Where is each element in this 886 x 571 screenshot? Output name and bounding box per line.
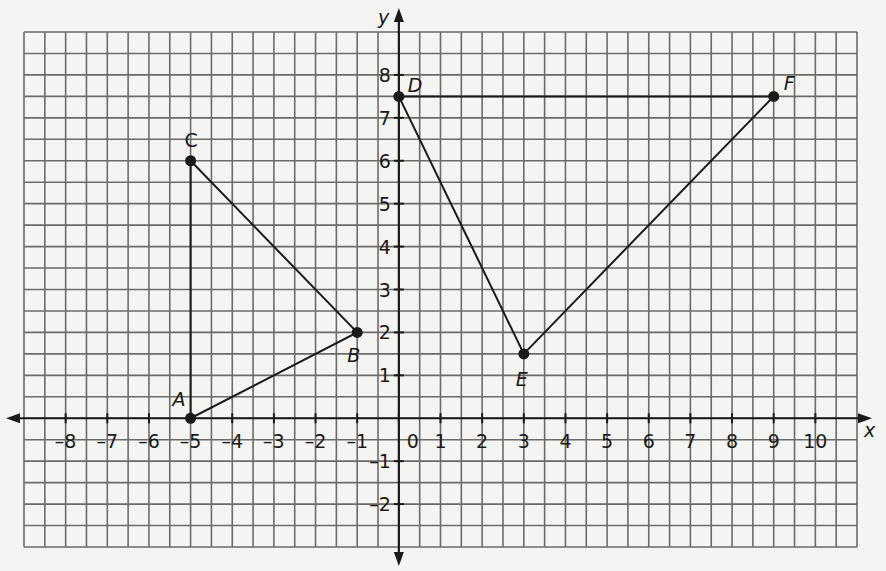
point-label-f: F [784, 72, 796, 94]
arrow-left-icon [6, 413, 20, 423]
x-tick-label: 1 [434, 430, 446, 452]
x-tick-label: 7 [684, 430, 696, 452]
x-tick-label: 3 [518, 430, 530, 452]
x-tick-label: 4 [559, 430, 571, 452]
x-tick-label: 9 [768, 430, 780, 452]
point-e [518, 348, 529, 359]
x-axis-label: x [863, 419, 876, 441]
y-tick-label: 8 [379, 64, 391, 86]
y-tick-label: –2 [369, 493, 391, 515]
x-tick-label: 8 [726, 430, 738, 452]
x-tick-label: 0 [407, 430, 419, 452]
arrow-down-icon [394, 552, 404, 566]
x-tick-label: 10 [803, 430, 827, 452]
x-tick-label: –1 [346, 430, 368, 452]
y-axis-label: y [377, 6, 390, 28]
point-label-c: C [185, 129, 198, 151]
y-tick-label: 2 [379, 321, 391, 343]
y-tick-label: 3 [379, 279, 391, 301]
point-f [768, 91, 779, 102]
point-label-a: A [171, 388, 186, 410]
x-tick-label: –7 [97, 430, 119, 452]
coordinate-plane: –8–7–6–5–4–3–2–1012345678910–2–112345678… [0, 0, 886, 571]
y-tick-label: –1 [369, 450, 391, 472]
y-tick-label: 5 [379, 193, 391, 215]
x-tick-label: –3 [263, 430, 285, 452]
point-b [352, 327, 363, 338]
x-tick-label: –4 [221, 430, 243, 452]
point-label-d: D [408, 74, 423, 96]
point-label-b: B [347, 344, 360, 366]
y-tick-label: 1 [379, 364, 391, 386]
x-tick-label: 2 [476, 430, 488, 452]
x-tick-label: –5 [180, 430, 202, 452]
x-tick-label: –8 [55, 430, 77, 452]
x-tick-label: –6 [138, 430, 160, 452]
y-tick-label: 7 [379, 107, 391, 129]
points: ABCDEF [171, 72, 796, 423]
x-axis [6, 413, 872, 423]
x-tick-label: 5 [601, 430, 613, 452]
x-tick-label: 6 [643, 430, 655, 452]
point-d [393, 91, 404, 102]
arrow-up-icon [394, 8, 404, 22]
y-tick-label: 6 [379, 150, 391, 172]
point-label-e: E [516, 368, 528, 390]
x-tick-label: –2 [305, 430, 327, 452]
y-tick-label: 4 [379, 236, 391, 258]
grid-lines [24, 32, 857, 547]
point-c [185, 155, 196, 166]
point-a [185, 413, 196, 424]
